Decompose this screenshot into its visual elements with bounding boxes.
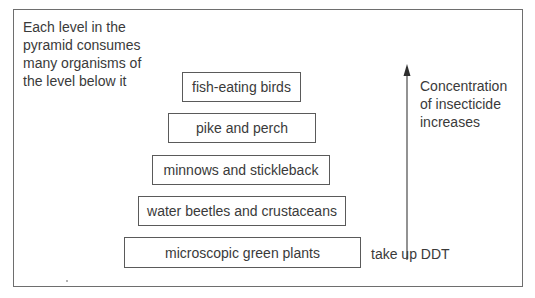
arrow-label-line: increases: [420, 113, 530, 131]
pyramid-level-minnows-and-stickleback: minnows and stickleback: [152, 155, 330, 185]
note-line: pyramid consumes: [23, 36, 173, 54]
note-line: Each level in the: [23, 18, 173, 36]
concentration-label: Concentration of insecticide increases: [420, 77, 530, 131]
pyramid-level-water-beetles-and-crustaceans: water beetles and crustaceans: [138, 196, 346, 226]
level-label: pike and perch: [196, 120, 288, 136]
scan-speck: [66, 280, 68, 282]
arrow-up-icon: [400, 64, 414, 262]
pyramid-level-pike-and-perch: pike and perch: [168, 113, 316, 143]
level-label: fish-eating birds: [192, 79, 291, 95]
note-line: the level below it: [23, 72, 173, 90]
take-up-ddt-label: take up DDT: [371, 245, 450, 263]
pyramid-note: Each level in the pyramid consumes many …: [23, 18, 173, 90]
level-label: microscopic green plants: [165, 245, 320, 261]
arrow-label-line: of insecticide: [420, 95, 530, 113]
pyramid-level-microscopic-green-plants: microscopic green plants: [124, 237, 361, 268]
level-label: minnows and stickleback: [164, 162, 319, 178]
level-label: water beetles and crustaceans: [147, 203, 337, 219]
note-line: many organisms of: [23, 54, 173, 72]
pyramid-level-fish-eating-birds: fish-eating birds: [182, 72, 301, 102]
arrow-label-line: Concentration: [420, 77, 530, 95]
